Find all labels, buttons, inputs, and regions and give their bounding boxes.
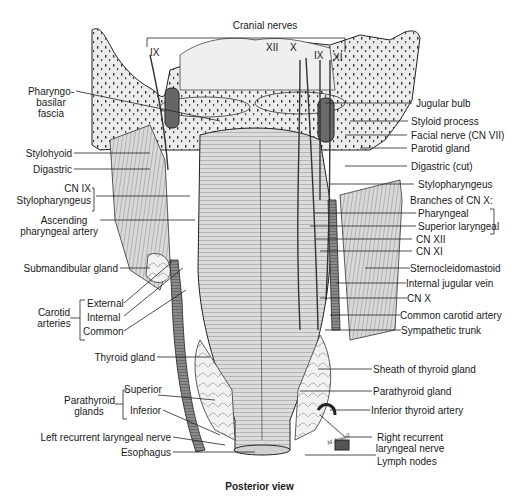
label-submandibular-gland: Submandibular gland xyxy=(0,263,118,274)
label-cn-x: CN X xyxy=(407,293,431,304)
label-sympathetic-trunk: Sympathetic trunk xyxy=(401,325,481,336)
label-cn-ix: CN IX xyxy=(0,183,91,194)
label-stylopharyngeus-left: Stylopharyngeus xyxy=(0,195,91,206)
label-facial-nerve: Facial nerve (CN VII) xyxy=(411,130,504,141)
label-styloid-process: Styloid process xyxy=(411,116,479,127)
figure-caption: Posterior view xyxy=(0,481,519,492)
label-carotid-external: External xyxy=(87,298,124,309)
label-cn-xi: CN XI xyxy=(416,246,443,257)
label-sternocleidomastoid: Sternocleidomastoid xyxy=(410,263,501,274)
label-parathyroid-superior: Superior xyxy=(124,384,162,395)
label-sheath-of-thyroid-gland: Sheath of thyroid gland xyxy=(373,364,476,375)
label-esophagus: Esophagus xyxy=(0,447,171,458)
label-cn-ix-top: IX xyxy=(314,50,323,61)
label-parotid-gland: Parotid gland xyxy=(411,143,470,154)
label-cn-xi-top: XI xyxy=(333,52,342,63)
label-carotid-common: Common xyxy=(83,326,124,337)
label-inferior-thyroid-artery: Inferior thyroid artery xyxy=(371,405,463,416)
cranial-nerves-title: Cranial nerves xyxy=(215,20,315,31)
label-pharyngeal-branch: Pharyngeal xyxy=(418,208,469,219)
jugular-bulb-left xyxy=(165,88,179,128)
right-jugular xyxy=(328,200,340,330)
label-pharyngobasilar-fascia: Pharyngo- basilar fascia xyxy=(26,86,76,119)
label-cn-x-top: X xyxy=(290,42,297,53)
label-parathyroid-inferior: Inferior xyxy=(130,405,161,416)
label-stylopharyngeus-right: Stylopharyngeus xyxy=(418,179,493,190)
label-lymph-nodes: Lymph nodes xyxy=(377,456,437,467)
label-branches-of-cn-x: Branches of CN X: xyxy=(410,195,493,206)
label-ascending-pharyngeal-artery: Ascending pharyngeal artery xyxy=(0,215,98,237)
label-carotid-arteries: Carotid arteries xyxy=(34,307,74,329)
label-left-recurrent-laryngeal-nerve: Left recurrent laryngeal nerve xyxy=(0,432,171,443)
label-thyroid-gland: Thyroid gland xyxy=(0,352,155,363)
label-digastric: Digastric xyxy=(0,164,72,175)
label-cn-xii: CN XII xyxy=(416,234,445,245)
label-internal-jugular-vein: Internal jugular vein xyxy=(406,278,493,289)
label-carotid-internal: Internal xyxy=(87,312,120,323)
label-digastric-cut: Digastric (cut) xyxy=(411,161,473,172)
label-cn-xii-top: XII xyxy=(266,42,278,53)
label-cn-ix-left: IX xyxy=(150,47,159,58)
sternocleidomastoid xyxy=(340,180,402,340)
label-right-recurrent-laryngeal-nerve: Right recurrent laryngeal nerve xyxy=(374,432,446,454)
label-parathyroid-gland: Parathyroid gland xyxy=(373,386,451,397)
esophagus-shape xyxy=(234,445,290,455)
label-superior-laryngeal-branch: Superior laryngeal xyxy=(418,221,499,232)
label-jugular-bulb: Jugular bulb xyxy=(416,98,470,109)
label-stylohyoid: Stylohyoid xyxy=(0,148,72,159)
label-common-carotid-artery: Common carotid artery xyxy=(400,310,502,321)
label-parathyroid-glands: Parathyroid glands xyxy=(64,395,114,417)
